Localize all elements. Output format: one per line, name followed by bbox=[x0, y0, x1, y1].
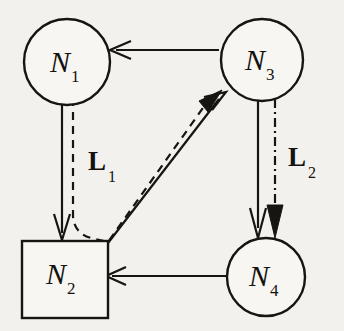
node-n2-label: N bbox=[45, 257, 68, 290]
node-n2-subscript: 2 bbox=[67, 279, 76, 298]
node-n1-subscript: 1 bbox=[71, 67, 80, 86]
diagram-canvas: N 1 N 3 N 2 N 4 L 1 L 2 bbox=[0, 0, 344, 331]
node-n3[interactable]: N 3 bbox=[221, 19, 303, 101]
edge-n2-to-n3-line bbox=[108, 99, 219, 243]
edge-n3-to-n4-dashdot-arrowhead bbox=[267, 205, 283, 238]
node-n1[interactable]: N 1 bbox=[24, 19, 110, 105]
edge-n3-to-n4-solid bbox=[250, 99, 266, 238]
node-n1-label: N bbox=[49, 45, 72, 78]
node-diagram-figure: N 1 N 3 N 2 N 4 L 1 L 2 bbox=[0, 0, 344, 331]
edge-n1-to-n2-solid bbox=[54, 99, 70, 240]
edge-n2-to-n3-solid bbox=[108, 92, 226, 243]
node-n3-label: N bbox=[244, 43, 267, 76]
node-n4-subscript: 4 bbox=[270, 281, 279, 300]
edge-n3-to-n4-dashdot bbox=[267, 99, 283, 238]
link-label-l2-subscript: 2 bbox=[308, 164, 316, 181]
edge-n3-to-n1 bbox=[110, 41, 219, 59]
edge-n4-to-n2 bbox=[106, 267, 228, 285]
link-label-l2-text: L bbox=[288, 142, 306, 172]
node-n2[interactable]: N 2 bbox=[22, 241, 108, 318]
link-label-l2: L 2 bbox=[288, 142, 316, 181]
link-label-l1-text: L bbox=[88, 146, 106, 176]
link-label-l1: L 1 bbox=[88, 146, 116, 185]
node-n4[interactable]: N 4 bbox=[227, 238, 305, 316]
node-n4-label: N bbox=[248, 259, 271, 292]
node-n3-subscript: 3 bbox=[266, 65, 275, 84]
link-label-l1-subscript: 1 bbox=[108, 168, 116, 185]
